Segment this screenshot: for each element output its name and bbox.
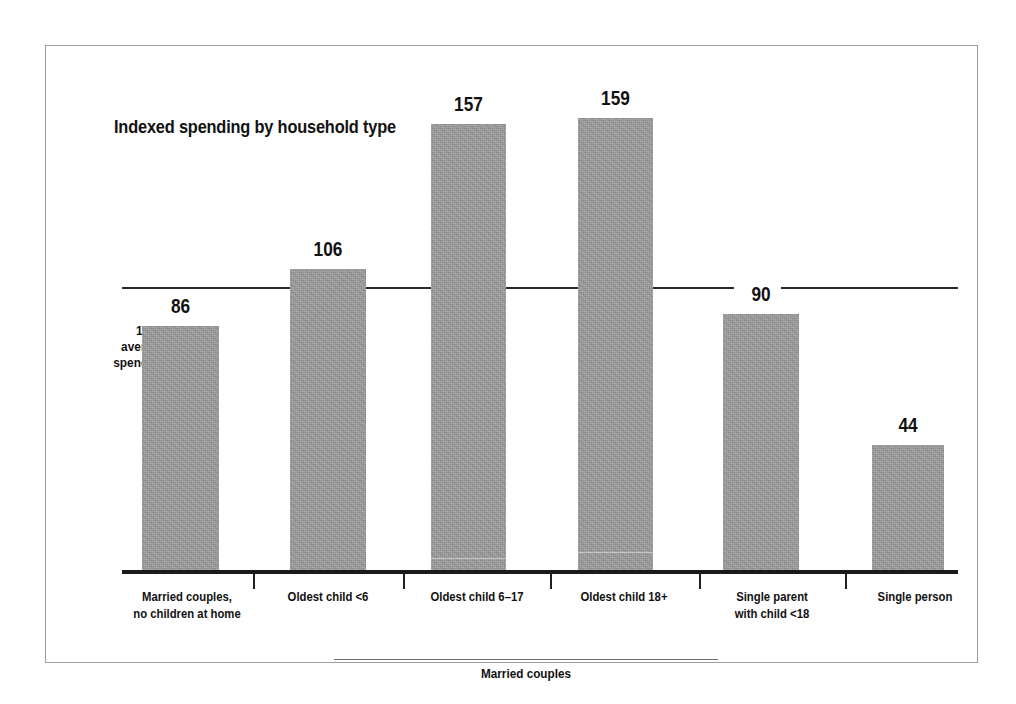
chart-title: Indexed spending by household type [114,116,396,138]
group-bracket-line [334,659,718,660]
y-axis-note-line-3: spending [111,355,166,371]
y-axis-note-line-2: average [111,339,166,355]
y-axis-annotation: 100 = average spending [104,323,166,371]
chart-frame: Indexed spending by household type 100 =… [45,45,978,663]
group-bracket-label: Married couples [359,666,693,681]
y-axis-note-line-1: 100 = [111,323,166,339]
